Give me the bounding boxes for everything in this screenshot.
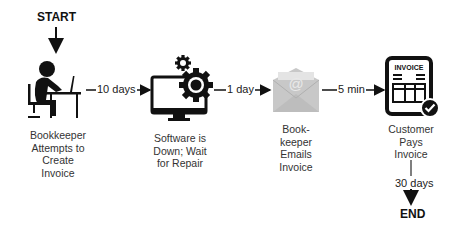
edge-label-5-min: 5 min: [337, 83, 366, 95]
svg-text:INVOICE: INVOICE: [395, 64, 424, 71]
monitor-gears-icon: [152, 55, 213, 121]
svg-text:@: @: [288, 75, 303, 92]
person-at-desk-icon: [28, 61, 81, 118]
start-terminal: START: [37, 10, 76, 24]
node-label-customer: Customer Pays Invoice: [375, 123, 447, 161]
end-terminal: END: [400, 207, 425, 221]
edge-label-10-days: 10 days: [96, 83, 137, 95]
invoice-check-icon: INVOICE: [387, 58, 439, 117]
node-label-email: Book- keeper Emails Invoice: [262, 123, 330, 173]
node-label-bookkeeper: Bookkeeper Attempts to Create Invoice: [10, 129, 106, 179]
email-envelope-icon: @: [273, 68, 319, 112]
edge-label-1-day: 1 day: [226, 83, 255, 95]
node-label-software: Software is Down; Wait for Repair: [138, 132, 222, 170]
diagram-canvas: @ INVOICE: [0, 0, 460, 227]
edge-label-30-days: 30 days: [394, 177, 435, 189]
